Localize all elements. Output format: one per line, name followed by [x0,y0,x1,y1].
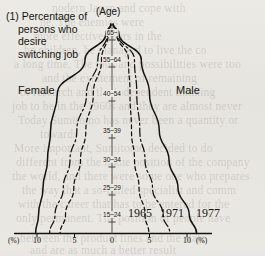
male-side-label: Male [176,84,200,96]
title-line-3: desire [6,35,106,48]
female-side-label: Female [18,84,55,96]
x-tick-label: 0 [110,236,114,245]
x-tick-label: 10 [183,236,191,245]
x-tick-label: 10 [33,236,41,245]
age-group-label: 65~ [106,29,119,36]
left-unit-label: (%) [8,236,19,245]
age-group-label: 30~34 [102,156,122,163]
age-group-label: 40~54 [102,90,122,97]
age-group-label: 35~39 [102,127,122,134]
age-group-label: 55~64 [102,56,122,63]
title-line-4: switching job [6,48,106,61]
figure-title: (1) Percentage of persons who desire swi… [6,10,106,60]
age-group-label: 25~29 [102,184,122,191]
year-label-1971: 1971 [160,206,184,221]
title-line-2: persons who [6,23,106,36]
title-line-1: (1) Percentage of [6,10,106,23]
age-group-label: 15~24 [102,211,122,218]
x-tick-label: 5 [73,236,77,245]
year-label-1965: 1965 [128,206,152,221]
right-unit-label: (%) [196,236,207,245]
year-label-1977: 1977 [196,206,220,221]
curve-male-1977 [113,24,197,234]
x-tick-label: 5 [148,236,152,245]
age-axis-caption: (Age) [96,6,120,17]
